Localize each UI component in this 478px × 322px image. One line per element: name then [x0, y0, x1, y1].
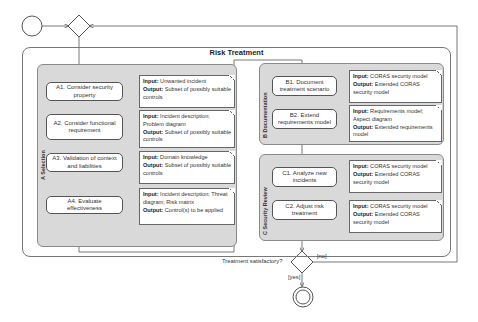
start-node — [22, 16, 42, 36]
activity-b1[interactable]: B1. Document treatment scenario — [272, 76, 337, 96]
activity-a3[interactable]: A3. Validation of context and liabilitie… — [46, 153, 123, 172]
note-c2: Input: CORAS security model Output: Exte… — [349, 200, 442, 233]
note-b1-input: CORAS security model — [370, 73, 428, 79]
note-fold-icon — [436, 70, 442, 76]
note-a2: Input: Incident description; Problem dia… — [139, 110, 235, 148]
decision-no-label: [no] — [317, 253, 327, 259]
decision-question: Treatment satisfactory? — [222, 258, 282, 264]
decision-yes-label: [yes] — [288, 274, 300, 280]
note-fold-icon — [229, 188, 235, 194]
note-c2-input: CORAS security model — [370, 203, 428, 209]
note-b1: Input: CORAS security model Output: Exte… — [349, 70, 442, 103]
note-fold-icon — [229, 75, 235, 81]
activity-a4[interactable]: A4. Evaluate effectiveness — [46, 196, 123, 214]
note-c1-input: CORAS security model — [370, 163, 428, 169]
activity-c2[interactable]: C2. Adjust risk treatment — [272, 200, 337, 220]
note-fold-icon — [436, 105, 442, 111]
note-fold-icon — [436, 160, 442, 166]
note-c1: Input: CORAS security model Output: Exte… — [349, 160, 442, 193]
merge-diamond — [68, 15, 90, 37]
note-a4: Input: Incident description; Threat diag… — [139, 188, 235, 225]
note-b2: Input: Requirements model; Aspect diagra… — [349, 105, 442, 142]
note-a4-output: Control(s) to be applied — [165, 207, 223, 213]
note-fold-icon — [229, 151, 235, 157]
group-c-label: C Security Review — [262, 187, 268, 235]
activity-a1[interactable]: A1. Consider security property — [46, 82, 123, 101]
note-a3: Input: Domain knowledge Output: Subset o… — [139, 151, 235, 184]
activity-a2[interactable]: A2. Consider functional requirement — [46, 114, 123, 140]
note-a1: Input: Unwanted incident Output: Subset … — [139, 75, 235, 108]
decision-diamond — [291, 251, 313, 273]
note-fold-icon — [436, 200, 442, 206]
group-b-label: B Documentation — [262, 92, 268, 138]
activity-b2[interactable]: B2. Extend requirements model — [272, 109, 337, 129]
activity-c1[interactable]: C1. Analyze new incidents — [272, 167, 337, 187]
end-node — [293, 287, 313, 307]
note-a1-input: Unwanted incident — [160, 78, 206, 84]
risk-treatment-title: Risk Treatment — [22, 48, 451, 57]
note-fold-icon — [229, 110, 235, 116]
note-a3-input: Domain knowledge — [160, 154, 208, 160]
